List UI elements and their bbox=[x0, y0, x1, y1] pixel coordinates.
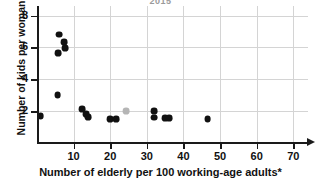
x-axis-tick bbox=[220, 143, 222, 149]
y-axis-tick bbox=[31, 16, 37, 18]
data-point bbox=[55, 50, 62, 57]
gridline-horizontal bbox=[37, 111, 308, 112]
x-axis-tick bbox=[74, 143, 76, 149]
x-tick-label-50: 50 bbox=[207, 150, 233, 162]
y-tick-label-2: 2 bbox=[0, 105, 28, 116]
x-axis-tick bbox=[110, 143, 112, 149]
data-point bbox=[56, 31, 63, 38]
gridline-vertical bbox=[293, 6, 294, 143]
x-axis-tick bbox=[257, 143, 259, 149]
gridline-horizontal bbox=[37, 16, 308, 17]
x-axis-tick bbox=[293, 143, 295, 149]
y-tick-label-4: 4 bbox=[0, 73, 28, 84]
plot-area bbox=[37, 6, 308, 143]
data-point bbox=[112, 115, 119, 122]
x-axis-title: Number of elderly per 100 working-age ad… bbox=[0, 166, 321, 178]
y-axis-line bbox=[37, 6, 39, 143]
data-point bbox=[150, 114, 157, 121]
x-tick-label-40: 40 bbox=[170, 150, 196, 162]
y-tick-label-6: 6 bbox=[0, 41, 28, 52]
gridline-vertical bbox=[183, 6, 184, 143]
data-point bbox=[204, 116, 211, 123]
x-tick-label-70: 70 bbox=[280, 150, 306, 162]
y-axis-tick bbox=[31, 111, 37, 113]
data-point bbox=[61, 45, 68, 52]
data-point bbox=[85, 114, 92, 121]
x-tick-label-30: 30 bbox=[134, 150, 160, 162]
x-axis-line bbox=[37, 142, 309, 144]
scatter-plot-figure: 2015 Number of kids per woman Number of … bbox=[0, 0, 321, 186]
y-axis-tick bbox=[31, 47, 37, 49]
x-axis-tick bbox=[147, 143, 149, 149]
data-point bbox=[54, 92, 61, 99]
x-tick-label-60: 60 bbox=[244, 150, 270, 162]
y-axis-tick bbox=[31, 79, 37, 81]
x-tick-label-20: 20 bbox=[97, 150, 123, 162]
x-axis-arrow-icon bbox=[307, 138, 315, 146]
gridline-horizontal bbox=[37, 47, 308, 48]
chart-title: 2015 bbox=[0, 0, 321, 4]
y-axis-title: Number of kids per woman bbox=[15, 0, 27, 138]
gridline-horizontal bbox=[37, 79, 308, 80]
y-tick-label-8: 8 bbox=[0, 10, 28, 21]
x-axis-tick bbox=[183, 143, 185, 149]
x-tick-label-10: 10 bbox=[61, 150, 87, 162]
gridline-vertical bbox=[74, 6, 75, 143]
gridline-vertical bbox=[257, 6, 258, 143]
gridline-vertical bbox=[110, 6, 111, 143]
data-point bbox=[123, 108, 130, 115]
data-point bbox=[166, 115, 173, 122]
gridline-vertical bbox=[147, 6, 148, 143]
gridline-vertical bbox=[220, 6, 221, 143]
